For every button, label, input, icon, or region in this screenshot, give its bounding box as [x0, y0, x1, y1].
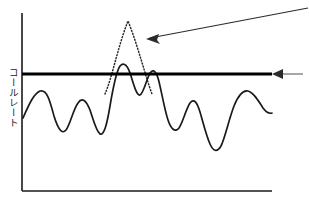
diagonal-annotation-arrow-shaft	[150, 8, 308, 38]
y-axis-label: コールレート	[3, 68, 19, 128]
call-rate-figure: コールレート	[0, 0, 309, 199]
chart-canvas	[0, 0, 309, 199]
dotted-spike-curve	[105, 21, 152, 94]
diagonal-annotation-arrowhead-icon	[146, 34, 160, 44]
horizontal-annotation-arrowhead-icon	[272, 69, 283, 79]
call-rate-curve	[23, 64, 272, 150]
